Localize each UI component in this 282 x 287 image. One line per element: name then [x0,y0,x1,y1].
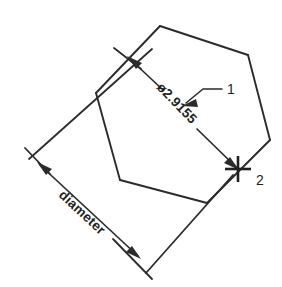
pentagon-edge-top [160,26,248,55]
dimension-diameter-value: ø2.9155 [127,56,239,170]
pentagon-edge-upper-right [248,55,270,140]
dimension-diameter-word: diameter [37,162,141,259]
dimension-text-diameter-word: diameter [56,187,109,238]
cad-drawing-svg: diameter ø2.9155 1 2 [0,0,282,287]
technical-drawing-canvas: diameter ø2.9155 1 2 [0,0,282,287]
extension-lines [25,48,233,279]
leader-line-1 [186,89,222,103]
pentagon-edge-bottom [120,180,207,203]
callout-label-2: 2 [256,172,264,188]
extension-tick-lower-right [113,239,152,279]
callout-leader-1 [182,89,222,107]
extension-line-upper-left [29,49,152,159]
callout-label-1: 1 [227,81,235,97]
pentagon-edge-left [96,93,120,180]
